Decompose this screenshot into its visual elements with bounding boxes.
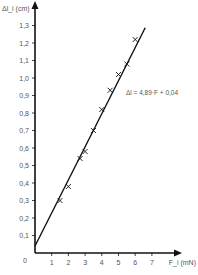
x-tick-label: 5 [117, 259, 121, 266]
x-marker-icon [108, 88, 113, 93]
x-axis-arrow-icon [174, 250, 182, 257]
fit-equation-annotation: Δl = 4,89·F + 0,04 [126, 89, 178, 96]
x-marker-icon [116, 72, 121, 77]
fit-line [35, 28, 145, 246]
y-tick-label: 0,2 [19, 215, 29, 222]
y-tick-label: 0,8 [19, 110, 29, 117]
x-marker-icon [133, 37, 138, 42]
y-tick-label: 1,3 [19, 22, 29, 29]
x-tick-label: 4 [100, 259, 104, 266]
y-tick-label: 1,0 [19, 75, 29, 82]
y-tick-label: 0,4 [19, 180, 29, 187]
y-tick-label: 0,1 [19, 232, 29, 239]
origin-label: 0 [23, 257, 27, 264]
x-axis-label: F_i (mN) [169, 259, 196, 267]
y-tick-label: 0,7 [19, 127, 29, 134]
y-axis-arrow-icon [32, 1, 39, 9]
axes [32, 1, 183, 257]
x-marker-icon [66, 184, 71, 189]
axis-labels: Δl_i (cm)F_i (mN)Δl = 4,89·F + 0,04 [2, 5, 196, 267]
y-tick-label: 1,2 [19, 40, 29, 47]
x-tick-label: 3 [83, 259, 87, 266]
x-marker-icon [124, 62, 129, 67]
y-tick-label: 0,9 [19, 92, 29, 99]
y-tick-label: 0,6 [19, 145, 29, 152]
x-tick-label: 7 [150, 259, 154, 266]
chart: 12345670,10,20,30,40,50,60,70,80,91,01,1… [0, 0, 198, 275]
fit-line [35, 28, 145, 246]
y-tick-label: 0,3 [19, 197, 29, 204]
x-tick-label: 2 [66, 259, 70, 266]
x-tick-label: 1 [50, 259, 54, 266]
x-tick-label: 6 [133, 259, 137, 266]
y-tick-label: 0,5 [19, 162, 29, 169]
y-tick-label: 1,1 [19, 57, 29, 64]
y-axis-label: Δl_i (cm) [2, 5, 30, 13]
